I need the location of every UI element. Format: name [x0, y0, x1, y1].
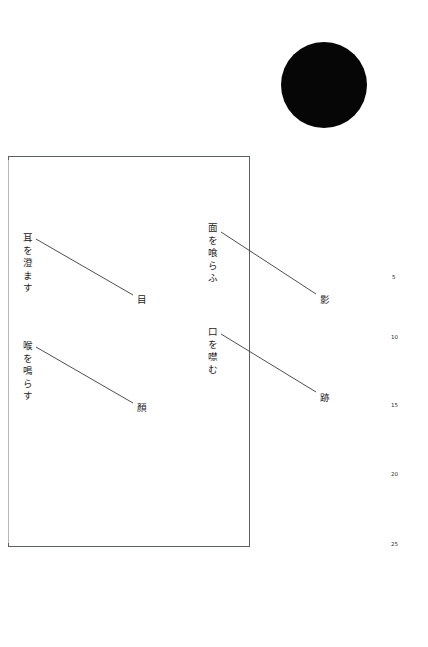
- black-circle-shape: [281, 42, 367, 128]
- stanza-phrase-4: 口を噤む: [207, 327, 217, 377]
- stanza-phrase-2: 喉を鳴らす: [22, 341, 32, 404]
- stanza-endpoint-4: 跡: [320, 390, 330, 404]
- stanza-phrase-3: 面を喰らふ: [207, 223, 217, 286]
- stanza-endpoint-3: 影: [320, 292, 330, 306]
- stanza-phrase-1: 耳を澄ます: [22, 233, 32, 296]
- stanza-endpoint-2: 顏: [137, 400, 147, 414]
- line-number-20: 20: [391, 471, 398, 477]
- line-number-15: 15: [391, 402, 398, 408]
- poem-page: 耳を澄ます 目 喉を鳴らす 顏 面を喰らふ 影 口を噤む 跡 5 10 15 2…: [0, 0, 428, 647]
- line-number-25: 25: [391, 541, 398, 547]
- stanza-endpoint-1: 目: [137, 292, 147, 306]
- line-number-10: 10: [391, 334, 398, 340]
- line-number-5: 5: [392, 274, 396, 280]
- frame-left-edge-fade: [8, 160, 9, 543]
